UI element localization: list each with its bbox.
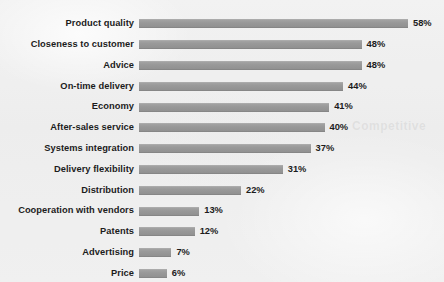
- bar-row: Product quality58%: [0, 14, 444, 35]
- category-label: Delivery flexibility: [0, 165, 134, 174]
- bar-track: [139, 248, 171, 257]
- bar-row: Cooperation with vendors13%: [0, 201, 444, 222]
- bar-track: [139, 82, 343, 91]
- bar-value-label: 58%: [413, 19, 432, 28]
- bar-value-label: 40%: [330, 123, 349, 132]
- bar-row: Delivery flexibility31%: [0, 159, 444, 180]
- category-label: After-sales service: [0, 123, 134, 132]
- bar-value-label: 22%: [246, 186, 265, 195]
- bar-fill: [139, 82, 343, 91]
- bar-value-label: 12%: [200, 227, 219, 236]
- category-label: Advertising: [0, 248, 134, 257]
- bar-fill: [139, 248, 171, 257]
- category-label: On-time delivery: [0, 82, 134, 91]
- bar-row: Closeness to customer48%: [0, 34, 444, 55]
- bar-fill: [139, 269, 167, 278]
- bar-track: [139, 61, 362, 70]
- bar-value-label: 7%: [176, 248, 189, 257]
- bar-track: [139, 123, 325, 132]
- bar-value-label: 37%: [316, 144, 335, 153]
- bar-row: Patents12%: [0, 222, 444, 243]
- bar-fill: [139, 103, 329, 112]
- category-label: Closeness to customer: [0, 40, 134, 49]
- bar-chart-figure: Competitive Product quality58%Closeness …: [0, 0, 444, 282]
- bar-value-label: 13%: [204, 206, 223, 215]
- bar-row: Advice48%: [0, 55, 444, 76]
- bar-track: [139, 165, 283, 174]
- bar-row: Economy41%: [0, 97, 444, 118]
- category-label: Cooperation with vendors: [0, 206, 134, 215]
- bar-value-label: 41%: [334, 102, 353, 111]
- bar-track: [139, 227, 195, 236]
- category-label: Economy: [0, 102, 134, 111]
- bar-fill: [139, 207, 199, 216]
- bar-value-label: 44%: [348, 82, 367, 91]
- bar-row: Price6%: [0, 263, 444, 282]
- bar-fill: [139, 61, 362, 70]
- bar-row: After-sales service40%: [0, 118, 444, 139]
- bar-track: [139, 103, 329, 112]
- bar-row: On-time delivery44%: [0, 76, 444, 97]
- bar-track: [139, 40, 362, 49]
- bar-fill: [139, 40, 362, 49]
- category-label: Systems integration: [0, 144, 134, 153]
- bar-value-label: 48%: [367, 61, 386, 70]
- bar-track: [139, 144, 311, 153]
- bar-track: [139, 19, 408, 28]
- bar-track: [139, 269, 167, 278]
- category-label: Distribution: [0, 186, 134, 195]
- bar-value-label: 31%: [288, 165, 307, 174]
- category-label: Patents: [0, 227, 134, 236]
- bar-value-label: 6%: [172, 269, 185, 278]
- bar-fill: [139, 19, 408, 28]
- bar-track: [139, 207, 199, 216]
- bar-row: Systems integration37%: [0, 138, 444, 159]
- bar-row: Advertising7%: [0, 242, 444, 263]
- bar-fill: [139, 186, 241, 195]
- plot-area: Product quality58%Closeness to customer4…: [0, 0, 444, 282]
- bar-fill: [139, 227, 195, 236]
- category-label: Price: [0, 269, 134, 278]
- bar-value-label: 48%: [367, 40, 386, 49]
- bar-track: [139, 186, 241, 195]
- category-label: Advice: [0, 61, 134, 70]
- bar-fill: [139, 123, 325, 132]
- category-label: Product quality: [0, 19, 134, 28]
- bar-fill: [139, 165, 283, 174]
- bar-row: Distribution22%: [0, 180, 444, 201]
- bar-fill: [139, 144, 311, 153]
